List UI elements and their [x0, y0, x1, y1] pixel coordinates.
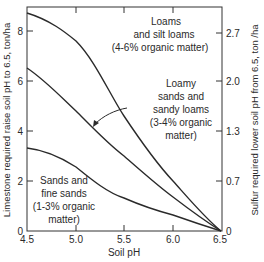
right-y-tick-2.0: 2.0	[226, 76, 240, 87]
y-tick-8: 8	[17, 26, 23, 37]
x-tick-4.5: 4.5	[20, 234, 34, 245]
x-axis-label: Soil pH	[108, 247, 140, 258]
annotation-loamy-sands: Loamy sands and sandy loams (3-4% organi…	[150, 78, 212, 141]
loamy-line-4: (3-4% organic	[150, 117, 212, 128]
sands-line-2: fine sands	[41, 188, 87, 199]
left-y-axis	[27, 31, 33, 181]
right-y-tick-0.7: 0.7	[226, 176, 240, 187]
annotation-arrow	[93, 108, 127, 127]
loams-line-1: Loams	[151, 16, 181, 27]
sands-line-1: Sands and	[40, 175, 88, 186]
x-tick-6.5: 6.5	[213, 234, 227, 245]
loamy-line-3: sandy loams	[153, 104, 209, 115]
loamy-line-1: Loamy	[166, 78, 196, 89]
right-y-tick-2.7: 2.7	[226, 28, 240, 39]
sands-line-4: matter)	[48, 214, 80, 225]
sands-line-3: (1-3% organic	[33, 201, 95, 212]
left-y-tick-labels: 0 2 4 6 8	[17, 26, 23, 237]
loamy-line-2: sands and	[158, 91, 204, 102]
loams-line-2: and silt loams	[133, 29, 194, 40]
x-tick-labels: 4.5 5.0 5.5 6.0 6.5	[20, 234, 227, 245]
right-y-tick-labels: 0 0.7 1.3 2.0 2.7	[226, 28, 240, 237]
loamy-line-5: matter)	[165, 130, 197, 141]
annotation-sands: Sands and fine sands (1-3% organic matte…	[33, 175, 95, 225]
x-tick-5.0: 5.0	[69, 234, 83, 245]
x-tick-5.5: 5.5	[117, 234, 131, 245]
y-tick-6: 6	[17, 76, 23, 87]
right-y-tick-1.3: 1.3	[226, 126, 240, 137]
limestone-sulfur-chart: 0 2 4 6 8 0 0.7 1.3 2.0 2.7 4.5 5.0 5.5 …	[0, 0, 264, 262]
right-y-axis-label: Sulfur required lower soil pH from 6.5, …	[249, 24, 260, 216]
loams-line-3: (4-6% organic matter)	[112, 42, 209, 53]
right-y-axis	[216, 33, 222, 181]
left-y-axis-label: Limestone required raise soil pH to 6.5,…	[1, 22, 12, 217]
y-tick-2: 2	[17, 176, 23, 187]
annotation-loams: Loams and silt loams (4-6% organic matte…	[112, 16, 209, 53]
y-tick-4: 4	[17, 126, 23, 137]
x-tick-6.0: 6.0	[166, 234, 180, 245]
